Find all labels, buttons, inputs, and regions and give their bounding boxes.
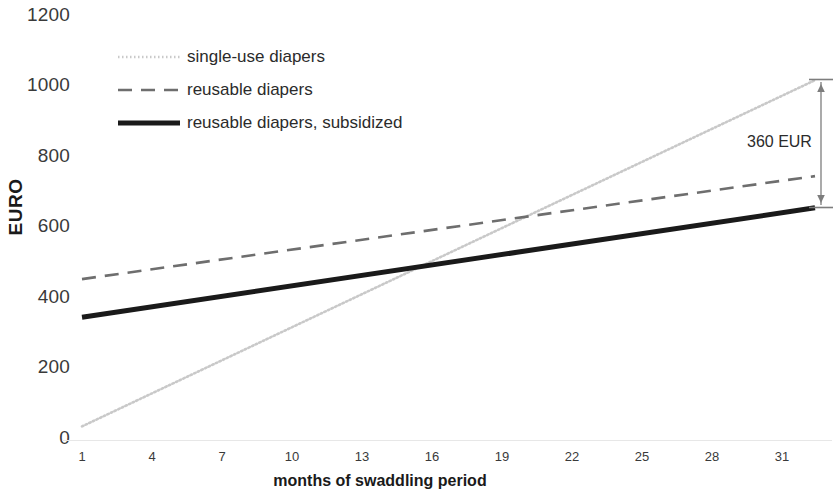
chart-legend: single-use diapers reusable diapers reus…: [118, 40, 402, 139]
legend-swatch-single-use-diapers: [118, 51, 180, 63]
annotation-360-eur-arrow: [809, 80, 833, 208]
series-line-reusable-diapers-subsidized: [82, 208, 815, 317]
annotation-360-eur-label: 360 EUR: [747, 133, 812, 151]
legend-label-reusable-diapers: reusable diapers: [187, 80, 313, 100]
legend-swatch-reusable-diapers-subsidized: [118, 117, 180, 129]
legend-item-single-use-diapers: single-use diapers: [118, 40, 402, 73]
legend-swatch-reusable-diapers: [118, 84, 180, 96]
chart-figure: EURO 1200 1000 800 600 400 200 0 1 4 7 1…: [0, 0, 839, 500]
legend-label-single-use-diapers: single-use diapers: [187, 47, 325, 67]
legend-label-reusable-diapers-subsidized: reusable diapers, subsidized: [187, 113, 402, 133]
legend-item-reusable-diapers-subsidized: reusable diapers, subsidized: [118, 106, 402, 139]
legend-item-reusable-diapers: reusable diapers: [118, 73, 402, 106]
